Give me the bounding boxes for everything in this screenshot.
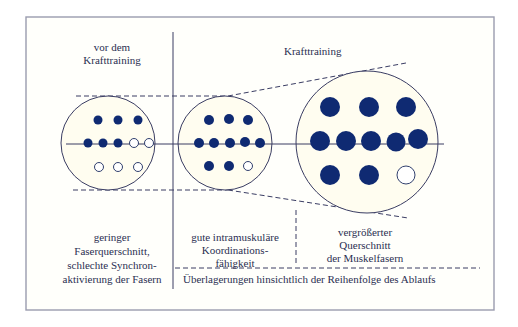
fiber-active (243, 115, 253, 125)
fiber-active (359, 165, 379, 185)
caption-before-line3: schlechte Synchron- (67, 259, 157, 271)
fiber-inactive (145, 139, 154, 148)
fiber-active (359, 97, 379, 117)
fiber-active (224, 161, 234, 171)
fiber-inactive (130, 139, 139, 148)
fiber-inactive (95, 163, 104, 172)
fiber-active (209, 138, 219, 148)
fiber-active (310, 131, 330, 151)
fiber-inactive (114, 163, 123, 172)
fiber-active (225, 138, 235, 148)
fiber-active (134, 116, 143, 125)
fiber-active (408, 129, 428, 149)
caption-overlap: Überlagerungen hinsichtlich der Reihenfo… (183, 273, 436, 285)
caption-coordination-line3: fähigkeit (215, 257, 254, 269)
fiber-active (94, 116, 103, 125)
fiber-active (204, 115, 214, 125)
muscle-adaptation-diagram: vor dem Krafttraining Krafttraining (0, 0, 518, 327)
fiber-active (361, 131, 381, 151)
fiber-active (224, 114, 234, 124)
caption-before-line4: aktivierung der Fasern (63, 273, 162, 285)
fiber-active (320, 165, 340, 185)
fibers-hypertrophy (310, 97, 428, 185)
fiber-active (387, 133, 406, 152)
fiber-active (204, 161, 214, 171)
fiber-active (320, 97, 340, 117)
fiber-inactive (397, 166, 415, 184)
fiber-active (84, 139, 93, 148)
caption-hypertrophy-line3: der Muskelfasern (327, 252, 404, 264)
muscle-before-circle (61, 96, 155, 190)
fiber-active (114, 139, 123, 148)
caption-hypertrophy-line2: Querschnitt (339, 239, 390, 251)
fiber-active (396, 97, 416, 117)
fiber-active (255, 138, 265, 148)
caption-before-line1: geringer (94, 231, 131, 243)
fiber-active (194, 138, 204, 148)
header-before-line2: Krafttraining (83, 54, 141, 66)
caption-coordination-line2: Koordinations- (202, 244, 269, 256)
fiber-inactive (244, 162, 253, 171)
fiber-active (240, 137, 250, 147)
caption-before-line2: Faserquerschnitt, (74, 245, 150, 257)
fiber-active (336, 131, 356, 151)
caption-coordination-line1: gute intramuskuläre (191, 231, 279, 243)
caption-hypertrophy-line1: vergrößerter (338, 226, 392, 238)
fiber-active (114, 116, 123, 125)
fiber-inactive (134, 163, 143, 172)
header-training: Krafttraining (284, 45, 342, 57)
fiber-active (99, 139, 108, 148)
header-before-line1: vor dem (94, 41, 131, 53)
